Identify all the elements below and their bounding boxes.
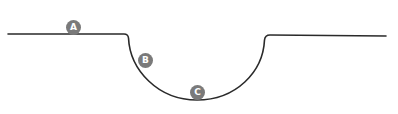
marker-c: C [190,85,205,100]
trough-diagram: A B C [0,0,398,114]
marker-a-label: A [70,23,77,32]
marker-a: A [66,20,81,35]
marker-c-label: C [194,88,201,97]
marker-b: B [138,53,153,68]
marker-b-label: B [142,56,149,65]
